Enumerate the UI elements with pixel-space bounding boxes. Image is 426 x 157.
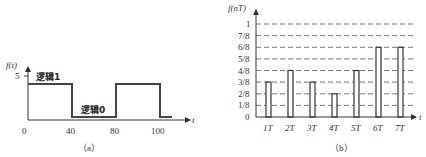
chart-a-ytick-5: 5 xyxy=(15,71,20,81)
chart-b-xlabel: t xyxy=(419,112,422,122)
chart-b-ylabel: f(nT) xyxy=(228,3,246,13)
chart-a-xtick-80: 80 xyxy=(110,126,120,136)
chart-a-xlabel: t xyxy=(192,115,195,125)
chart-b-yticks: 0 1/8 2/8 3/8 4/8 5/8 6/8 7/8 1 xyxy=(238,19,251,122)
bar-6T xyxy=(376,47,381,117)
svg-text:1: 1 xyxy=(246,19,251,29)
svg-text:7T: 7T xyxy=(395,123,406,133)
chart-b: f(nT) 0 1/8 2/8 3/8 4/8 5/8 6/8 7/8 1 1T… xyxy=(228,3,422,153)
chart-a-ylabel: f(t) xyxy=(6,60,17,70)
svg-text:4/8: 4/8 xyxy=(238,66,250,76)
chart-a-xtick-40: 40 xyxy=(66,126,76,136)
chart-a: f(t) 5 逻辑1 逻辑0 0 40 80 100 t （a） xyxy=(6,60,195,153)
chart-b-xticks: 1T 2T 3T 4T 5T 6T 7T xyxy=(263,123,406,133)
svg-text:4T: 4T xyxy=(329,123,340,133)
svg-text:2/8: 2/8 xyxy=(238,89,250,99)
bar-5T xyxy=(354,71,359,118)
chart-b-bars xyxy=(266,47,403,117)
chart-a-caption: （a） xyxy=(78,143,100,153)
chart-b-grid xyxy=(256,24,414,105)
svg-text:0: 0 xyxy=(245,112,250,122)
svg-text:3/8: 3/8 xyxy=(238,77,250,87)
svg-text:5T: 5T xyxy=(351,123,362,133)
bar-7T xyxy=(398,47,403,117)
svg-text:6/8: 6/8 xyxy=(238,42,250,52)
chart-b-caption: （b） xyxy=(330,143,353,153)
svg-text:7/8: 7/8 xyxy=(238,31,250,41)
svg-text:5/8: 5/8 xyxy=(238,54,250,64)
bar-3T xyxy=(310,82,315,117)
bar-1T xyxy=(266,82,271,117)
annotation-logic1: 逻辑1 xyxy=(35,71,60,82)
svg-text:6T: 6T xyxy=(373,123,384,133)
svg-text:1T: 1T xyxy=(263,123,274,133)
svg-text:1/8: 1/8 xyxy=(238,100,250,110)
svg-text:3T: 3T xyxy=(306,123,318,133)
chart-a-xtick-0: 0 xyxy=(22,126,27,136)
svg-text:2T: 2T xyxy=(285,123,296,133)
chart-a-xtick-100: 100 xyxy=(151,126,165,136)
figure-canvas: f(t) 5 逻辑1 逻辑0 0 40 80 100 t （a） xyxy=(0,0,426,157)
annotation-logic0: 逻辑0 xyxy=(80,104,105,115)
bar-2T xyxy=(288,71,293,118)
bar-4T xyxy=(332,94,337,117)
